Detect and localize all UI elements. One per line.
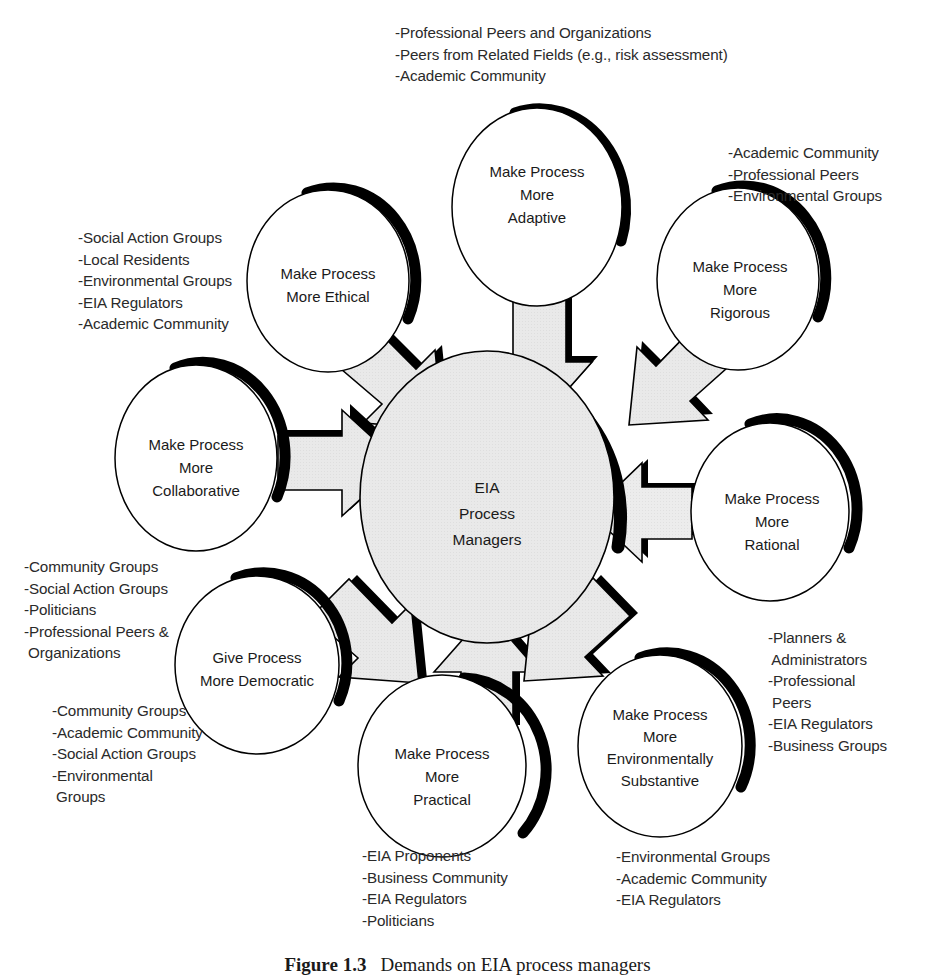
annotation-line: Groups [52,786,203,808]
node-env-line-0: Make Process [612,706,707,723]
annotation-line: -EIA Regulators [768,713,887,735]
annotation-line: -Environmental Groups [616,846,770,868]
figure-caption-label: Figure 1.3 [284,954,366,975]
figure-caption: Figure 1.3Demands on EIA process manager… [0,954,935,976]
annotation-line: -Professional Peers and Organizations [395,22,728,44]
annotation-line: -EIA Regulators [78,292,232,314]
node-collaborative-line-2: Collaborative [152,482,240,499]
annotation-line: -Academic Community [78,313,232,335]
node-rigorous-line-0: Make Process [692,258,787,275]
annotation-line: -Environmental Groups [728,185,882,207]
annotation-line: -Academic Community [52,722,203,744]
node-adaptive-line-2: Adaptive [508,209,566,226]
annotation-line: -Environmental Groups [78,270,232,292]
node-practical-circle [358,675,526,857]
annotation-line: Administrators [768,649,887,671]
center-node-line-1: Process [459,505,515,522]
node-practical-line-2: Practical [413,791,471,808]
center-node-line-2: Managers [453,531,522,548]
annotation-line: -Social Action Groups [52,743,203,765]
node-practical-line-0: Make Process [394,745,489,762]
annotation-line: -Community Groups [52,700,203,722]
annotation-line: -Professional Peers [728,164,882,186]
annotation-rational-stakeholders: -Planners & Administrators-Professional … [768,627,887,756]
annotation-line: -Academic Community [616,868,770,890]
annotation-line: -Peers from Related Fields (e.g., risk a… [395,44,728,66]
node-rational[interactable]: Make Process More Rational [691,419,857,601]
node-rational-line-0: Make Process [724,490,819,507]
annotation-line: -Professional [768,670,887,692]
annotation-line: -EIA Regulators [616,889,770,911]
node-adaptive[interactable]: Make Process More Adaptive [452,108,626,306]
node-democratic-line-1: More Democratic [200,672,315,689]
node-rigorous-circle [657,188,819,370]
figure-caption-text: Demands on EIA process managers [380,954,650,975]
annotation-environmental-stakeholders: -Environmental Groups-Academic Community… [616,846,770,911]
annotation-line: Organizations [24,642,169,664]
node-collaborative-line-1: More [179,459,213,476]
annotation-rigorous-stakeholders: -Academic Community-Professional Peers-E… [728,142,882,207]
annotation-line: -EIA Regulators [362,888,508,910]
node-practical[interactable]: Make Process More Practical [358,675,546,857]
center-node-circle [360,351,614,643]
annotation-line: -EIA Proponents [362,845,508,867]
annotation-line: -Professional Peers & [24,621,169,643]
annotation-ethical-stakeholders: -Social Action Groups-Local Residents-En… [78,227,232,335]
annotation-line: -Business Groups [768,735,887,757]
annotation-line: -Politicians [362,910,508,932]
annotation-collaborative-stakeholders: -Community Groups-Social Action Groups-P… [24,556,169,664]
annotation-democratic-stakeholders: -Community Groups-Academic Community-Soc… [52,700,203,808]
node-adaptive-circle [452,108,622,306]
node-rigorous[interactable]: Make Process More Rigorous [657,186,826,370]
node-rigorous-line-2: Rigorous [710,304,770,321]
node-env-line-2: Environmentally [607,750,714,767]
annotation-line: -Academic Community [395,65,728,87]
annotation-line: Peers [768,692,887,714]
annotation-line: -Business Community [362,867,508,889]
annotation-line: -Local Residents [78,249,232,271]
node-rigorous-line-1: More [723,281,757,298]
node-env-line-3: Substantive [621,772,699,789]
node-collaborative-line-0: Make Process [148,436,243,453]
node-collaborative[interactable]: Make Process More Collaborative [115,362,285,551]
annotation-line: -Community Groups [24,556,169,578]
node-adaptive-line-1: More [520,186,554,203]
annotation-line: -Planners & [768,627,887,649]
node-env-line-1: More [643,728,677,745]
annotation-line: -Social Action Groups [78,227,232,249]
annotation-line: -Social Action Groups [24,578,169,600]
annotation-line: -Environmental [52,765,203,787]
node-ethical-line-0: Make Process [280,265,375,282]
node-rational-line-2: Rational [744,536,799,553]
node-rational-line-1: More [755,513,789,530]
node-environmentally-substantive-circle [578,655,742,837]
node-adaptive-line-0: Make Process [489,163,584,180]
node-practical-line-1: More [425,768,459,785]
annotation-line: -Politicians [24,599,169,621]
annotation-adaptive-stakeholders: -Professional Peers and Organizations-Pe… [395,22,728,87]
annotation-line: -Academic Community [728,142,882,164]
node-environmentally-substantive[interactable]: Make Process More Environmentally Substa… [578,653,750,837]
node-ethical-line-1: More Ethical [286,288,369,305]
center-node-line-0: EIA [475,479,501,496]
node-democratic-line-0: Give Process [212,649,301,666]
annotation-practical-stakeholders: -EIA Proponents-Business Community-EIA R… [362,845,508,931]
